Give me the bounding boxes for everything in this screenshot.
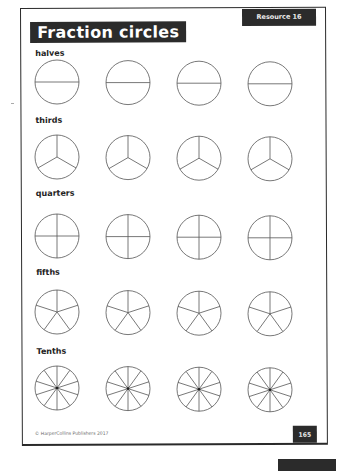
fraction-circle-quarters: [106, 215, 150, 259]
fraction-circle-halves: [35, 60, 79, 104]
bottom-dark-block: [278, 459, 336, 471]
fraction-circle-thirds: [248, 137, 292, 181]
fraction-circle-thirds: [106, 136, 150, 180]
fraction-circle-tenths: [35, 366, 79, 410]
fraction-circle-tenths: [248, 368, 292, 412]
fraction-circle-halves: [248, 62, 292, 106]
fraction-circle-tenths: [177, 367, 221, 411]
fraction-circle-fifths: [35, 290, 79, 334]
fraction-circle-fifths: [248, 292, 292, 336]
fraction-circle-quarters: [248, 216, 292, 260]
fraction-circle-thirds: [35, 135, 79, 179]
fraction-circle-thirds: [177, 136, 221, 180]
fraction-circle-halves: [106, 61, 150, 105]
fraction-circle-fifths: [177, 291, 221, 335]
fraction-circle-fifths: [106, 291, 150, 335]
fraction-circle-quarters: [35, 214, 79, 258]
fraction-circle-tenths: [106, 367, 150, 411]
fraction-circle-quarters: [177, 215, 221, 259]
fraction-circle-halves: [177, 61, 221, 105]
